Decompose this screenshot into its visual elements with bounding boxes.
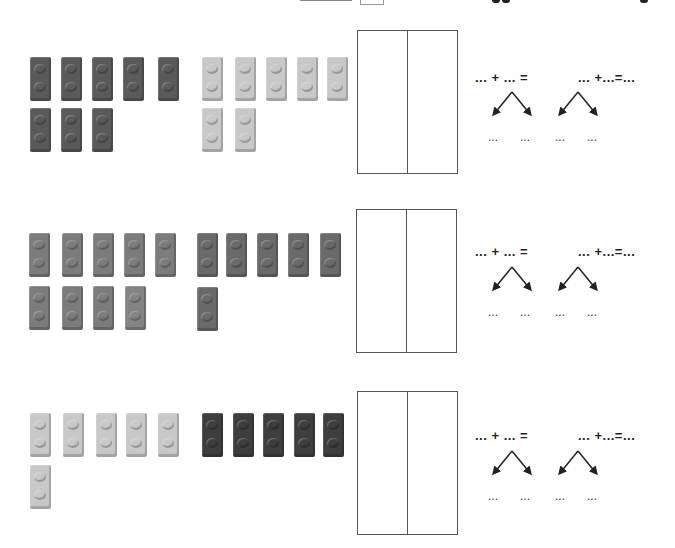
stud-icon: [128, 240, 140, 250]
stud-icon: [292, 258, 304, 268]
stud-icon: [292, 240, 304, 250]
cropped-glyph: [502, 0, 510, 3]
stud-icon: [159, 240, 171, 250]
split-blank: ...: [520, 305, 530, 319]
stud-icon: [206, 133, 218, 143]
stud-icon: [97, 311, 109, 321]
brick: [61, 57, 82, 101]
stud-icon: [201, 294, 213, 304]
brick: [92, 108, 113, 152]
stud-icon: [239, 64, 251, 74]
split-blank: ...: [488, 305, 498, 319]
answer-box[interactable]: [356, 209, 457, 353]
stud-icon: [267, 438, 279, 448]
brick: [62, 286, 83, 330]
split-arrows-icon: [554, 265, 604, 293]
brick: [235, 108, 256, 152]
brick: [63, 413, 84, 457]
stud-icon: [100, 438, 112, 448]
stud-icon: [66, 293, 78, 303]
brick: [320, 233, 341, 277]
brick: [29, 233, 50, 277]
stud-icon: [34, 115, 46, 125]
brick: [235, 57, 256, 101]
brick: [158, 413, 179, 457]
stud-icon: [237, 420, 249, 430]
box-divider: [406, 210, 407, 352]
stud-icon: [96, 115, 108, 125]
answer-box[interactable]: [357, 391, 458, 535]
stud-icon: [327, 420, 339, 430]
stud-icon: [34, 133, 46, 143]
brick: [297, 57, 318, 101]
split-blank: ...: [555, 130, 565, 144]
split-arrows-icon: [488, 449, 538, 477]
brick: [327, 57, 348, 101]
stud-icon: [130, 420, 142, 430]
stud-icon: [129, 311, 141, 321]
split-arrows-icon: [554, 90, 604, 118]
stud-icon: [298, 438, 310, 448]
stud-icon: [34, 490, 46, 500]
stud-icon: [239, 133, 251, 143]
stud-icon: [206, 438, 218, 448]
stud-icon: [239, 115, 251, 125]
split-arrows-icon: [554, 449, 604, 477]
stud-icon: [324, 258, 336, 268]
brick: [233, 413, 254, 457]
stud-icon: [261, 258, 273, 268]
brick: [62, 233, 83, 277]
brick: [323, 413, 344, 457]
stud-icon: [162, 82, 174, 92]
stud-icon: [65, 82, 77, 92]
answer-box[interactable]: [357, 30, 458, 174]
stud-icon: [324, 240, 336, 250]
brick: [96, 413, 117, 457]
brick: [288, 233, 309, 277]
stud-icon: [65, 133, 77, 143]
stud-icon: [96, 82, 108, 92]
stud-icon: [162, 64, 174, 74]
equation-right: ... +...=...: [578, 428, 635, 443]
brick: [266, 57, 287, 101]
stud-icon: [34, 420, 46, 430]
brick: [202, 413, 223, 457]
brick: [202, 108, 223, 152]
split-blank: ...: [488, 489, 498, 503]
stud-icon: [67, 438, 79, 448]
stud-icon: [206, 82, 218, 92]
stud-icon: [239, 82, 251, 92]
stud-icon: [327, 438, 339, 448]
brick: [158, 57, 179, 101]
split-blank: ...: [520, 489, 530, 503]
stud-icon: [201, 312, 213, 322]
stud-icon: [267, 420, 279, 430]
stud-icon: [33, 258, 45, 268]
stud-icon: [129, 293, 141, 303]
split-blank: ...: [555, 489, 565, 503]
cropped-previous-content: [0, 0, 675, 6]
stud-icon: [270, 64, 282, 74]
cropped-glyph: [640, 0, 648, 3]
stud-icon: [127, 64, 139, 74]
stud-icon: [34, 438, 46, 448]
brick: [93, 286, 114, 330]
split-blank: ...: [587, 130, 597, 144]
brick: [263, 413, 284, 457]
stud-icon: [66, 240, 78, 250]
cropped-glyph: [492, 0, 500, 3]
stud-icon: [206, 420, 218, 430]
box-divider: [407, 392, 408, 534]
stud-icon: [96, 133, 108, 143]
stud-icon: [96, 64, 108, 74]
stud-icon: [331, 64, 343, 74]
stud-icon: [100, 420, 112, 430]
stud-icon: [97, 293, 109, 303]
equation-right: ... +...=...: [578, 70, 635, 85]
split-blank: ...: [587, 489, 597, 503]
split-blank: ...: [587, 305, 597, 319]
brick: [226, 233, 247, 277]
stud-icon: [66, 311, 78, 321]
split-blank: ...: [555, 305, 565, 319]
stud-icon: [65, 64, 77, 74]
